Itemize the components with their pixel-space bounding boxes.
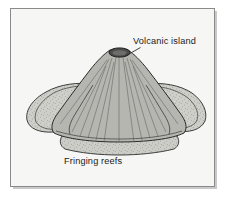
label-volcanic-island: Volcanic island bbox=[133, 36, 196, 46]
summit-crater bbox=[109, 48, 130, 57]
label-fringing-reefs: Fringing reefs bbox=[64, 156, 123, 166]
figure-container: Volcanic island Fringing reefs bbox=[0, 0, 227, 200]
volcanic-island-diagram: Volcanic island Fringing reefs bbox=[0, 0, 227, 200]
crater-inner bbox=[113, 50, 127, 55]
